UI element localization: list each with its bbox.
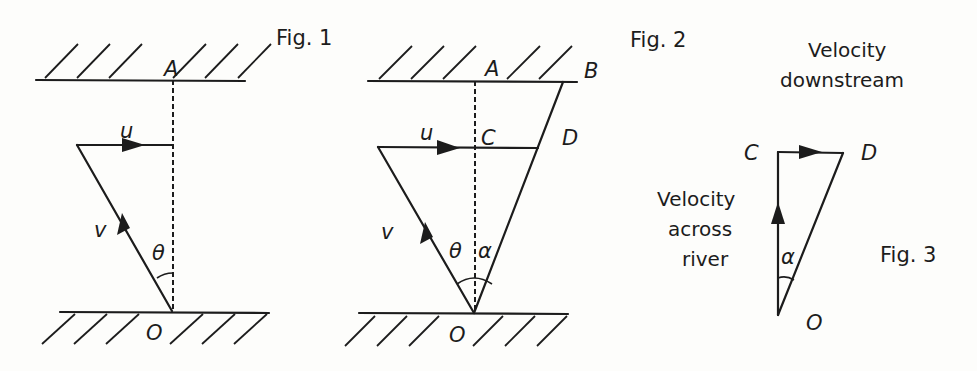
fig3-arrow-downstream-icon xyxy=(799,145,822,159)
fig2-label-B: B xyxy=(584,59,598,83)
fig1-label-theta: θ xyxy=(152,241,165,265)
fig2-arrow-u-icon xyxy=(437,140,460,155)
fig2-top-bank xyxy=(368,46,577,82)
fig3-label-C: C xyxy=(744,141,759,165)
fig2-label-A: A xyxy=(483,57,499,81)
fig2-label-O: O xyxy=(449,323,466,347)
fig2-label-alpha: α xyxy=(478,239,492,263)
fig2-label-D: D xyxy=(562,126,578,150)
fig1: A u v θ O Fig. 1 xyxy=(36,26,332,345)
fig3-across-line1: Velocity xyxy=(657,187,736,211)
fig3-downstream-line2: downstream xyxy=(780,68,904,92)
fig2-label-u: u xyxy=(420,121,433,145)
fig1-label-u: u xyxy=(120,119,133,143)
fig3-across-line3: river xyxy=(682,247,729,271)
fig2-caption: Fig. 2 xyxy=(630,28,686,52)
fig3: C D α O Velocity downstream Velocity acr… xyxy=(657,38,936,335)
fig3-label-alpha: α xyxy=(781,245,795,269)
fig2-label-theta: θ xyxy=(449,239,462,263)
fig1-label-O: O xyxy=(146,321,163,345)
fig3-line-OD xyxy=(778,153,843,315)
fig1-top-bank xyxy=(36,44,271,81)
fig1-label-A: A xyxy=(162,57,178,81)
fig3-angle-alpha-arc xyxy=(778,277,794,280)
fig2: A B u C D v θ α O Fig. 2 xyxy=(345,28,686,347)
fig3-caption: Fig. 3 xyxy=(880,243,936,267)
fig1-angle-theta-arc xyxy=(157,273,173,278)
fig1-caption: Fig. 1 xyxy=(276,26,332,50)
fig3-across-line2: across xyxy=(668,217,732,241)
fig2-line-OB xyxy=(474,82,563,313)
fig2-label-v: v xyxy=(381,220,394,244)
river-crossing-diagram: A u v θ O Fig. 1 A xyxy=(0,0,977,371)
fig3-label-O: O xyxy=(806,311,823,335)
fig2-label-C: C xyxy=(481,126,496,150)
fig3-downstream-line1: Velocity xyxy=(808,38,887,62)
fig1-label-v: v xyxy=(94,218,107,242)
fig3-arrow-across-icon xyxy=(771,202,785,224)
fig3-label-D: D xyxy=(861,141,877,165)
